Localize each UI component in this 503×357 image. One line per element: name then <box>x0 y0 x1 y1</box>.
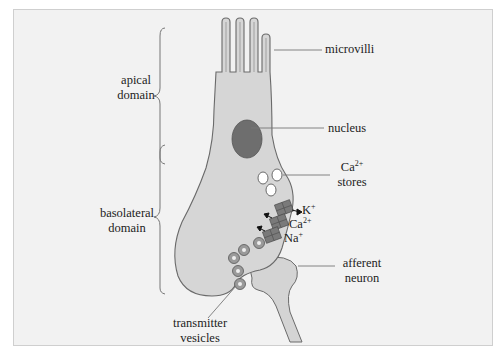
apical-domain-label: apical domain <box>106 73 166 103</box>
basolateral-domain-label: basolateral domain <box>92 206 162 236</box>
microvilli-label: microvilli <box>325 42 374 57</box>
transmitter-vesicles-label: transmitter vesicles <box>165 316 235 346</box>
na-ion-label: Na+ <box>284 231 303 246</box>
ca-stores-label: Ca2+ stores <box>330 160 374 190</box>
nucleus-label: nucleus <box>328 121 366 136</box>
nucleus-shape <box>232 120 262 158</box>
hair-cell-diagram <box>0 0 503 357</box>
afferent-neuron-label: afferent neuron <box>334 256 390 286</box>
